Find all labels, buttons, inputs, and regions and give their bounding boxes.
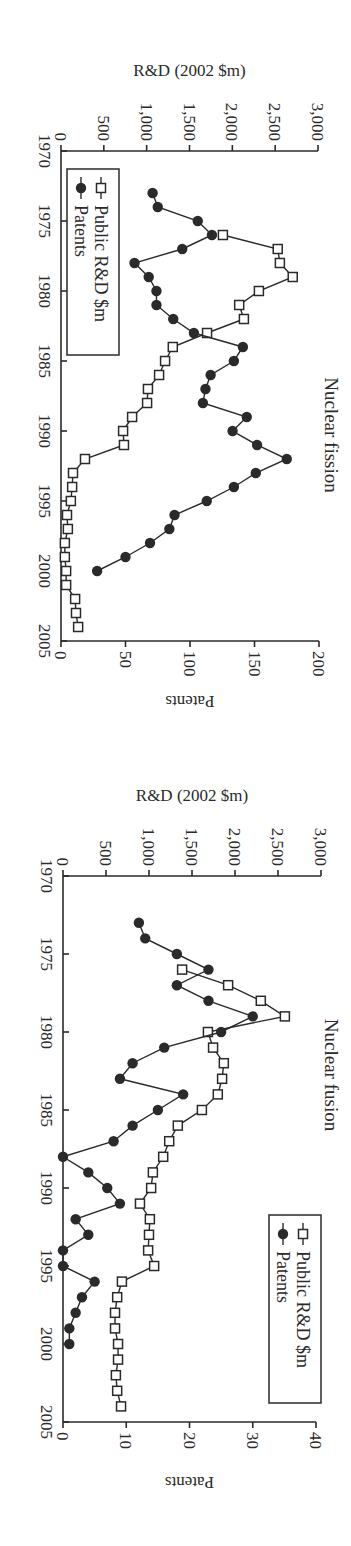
x-tick-label: 1995 [35,484,54,518]
data-point [83,1167,93,1177]
y-tick-label: 1,000 [137,103,156,141]
data-point [58,1152,68,1162]
data-point [143,385,152,394]
data-point [144,1246,153,1255]
square-marker-icon [299,1230,308,1239]
data-point [115,1198,125,1208]
x-tick-label: 1990 [37,1171,56,1205]
x-tick-label: 1995 [37,1249,56,1283]
data-point [280,1012,289,1021]
data-point [127,1058,137,1068]
data-point [58,1245,68,1255]
data-point [64,1323,74,1333]
chart-nuclear-fission: Nuclear fission1970197519801985199019952… [35,61,342,711]
y2-axis-label: Patents [165,1473,214,1492]
legend: Public R&D $mPatents [67,169,119,355]
x-tick-label: 1980 [37,1015,56,1049]
data-point [129,258,139,268]
data-point [115,1074,125,1084]
data-point [218,1074,227,1083]
data-point [173,1121,182,1130]
x-tick-label: 1975 [35,204,54,238]
data-point [254,287,263,296]
data-point [66,497,75,506]
data-point [168,343,177,352]
data-point [251,468,261,478]
x-tick-label: 1985 [35,344,54,378]
data-point [147,188,157,198]
y2-tick-label: 20 [180,1432,199,1449]
data-point [113,1293,122,1302]
y-axis-label: R&D (2002 $m) [136,786,248,805]
data-point [165,1137,174,1146]
data-point [148,1168,157,1177]
data-point [219,1059,228,1068]
data-point [151,286,161,296]
data-point [62,581,71,590]
y-tick-label: 3,000 [308,103,327,141]
data-point [60,539,69,548]
data-point [161,357,170,366]
data-point [135,1199,144,1208]
data-point [224,981,233,990]
data-point [178,965,187,974]
data-point [169,510,179,520]
x-tick-label: 2000 [35,554,54,588]
y-tick-label: 500 [96,841,115,867]
data-point [117,1277,126,1286]
y2-tick-label: 0 [53,1432,72,1441]
data-point [273,245,282,254]
data-point [172,980,182,990]
data-point [80,455,89,464]
y-axis-patents: 050100150200Patents [51,641,328,711]
data-point [153,1105,163,1115]
series-patents [92,188,292,576]
circle-marker-icon [278,1229,288,1239]
rotated-figure: Nuclear fission1970197519801985199019952… [0,0,351,1546]
data-point [71,595,80,604]
chart-title: Nuclear fission [321,377,342,493]
data-point [288,273,297,282]
data-point [229,482,239,492]
data-point [128,413,137,422]
y-tick-label: 2,000 [222,103,241,141]
data-point [207,230,217,240]
y-tick-label: 1,500 [182,828,201,866]
data-point [275,259,284,268]
data-point [153,202,163,212]
data-point [238,342,248,352]
data-point [140,933,150,943]
data-point [144,272,154,282]
data-point [202,496,212,506]
data-point [63,525,72,534]
y-axis-rd: 05001,0001,5002,0002,5003,000R&D (2002 $… [53,786,330,876]
y2-tick-label: 150 [245,651,264,677]
data-point [227,426,237,436]
data-point [203,996,213,1006]
data-point [68,483,77,492]
y2-tick-label: 100 [180,651,199,677]
y2-tick-label: 30 [243,1432,262,1449]
data-point [71,609,80,618]
y2-tick-label: 0 [51,651,70,660]
legend: Public R&D $mPatents [269,1215,321,1403]
y-tick-label: 2,500 [268,828,287,866]
data-point [197,1106,206,1115]
data-point [70,1308,80,1318]
data-point [114,1355,123,1364]
data-point [178,1089,188,1099]
data-point [92,566,102,576]
x-axis: 19701975198019851990199520002005 [35,134,67,658]
y2-tick-label: 10 [116,1432,135,1449]
data-point [193,216,203,226]
data-point [151,300,161,310]
data-point [83,1230,93,1240]
data-point [164,524,174,534]
figure-canvas: Nuclear fission1970197519801985199019952… [0,0,351,1546]
data-point [58,1261,68,1271]
data-point [145,538,155,548]
data-point [203,964,213,974]
data-point [89,1276,99,1286]
legend-label: Patents [71,205,91,257]
legend-label: Public R&D $m [91,205,111,322]
